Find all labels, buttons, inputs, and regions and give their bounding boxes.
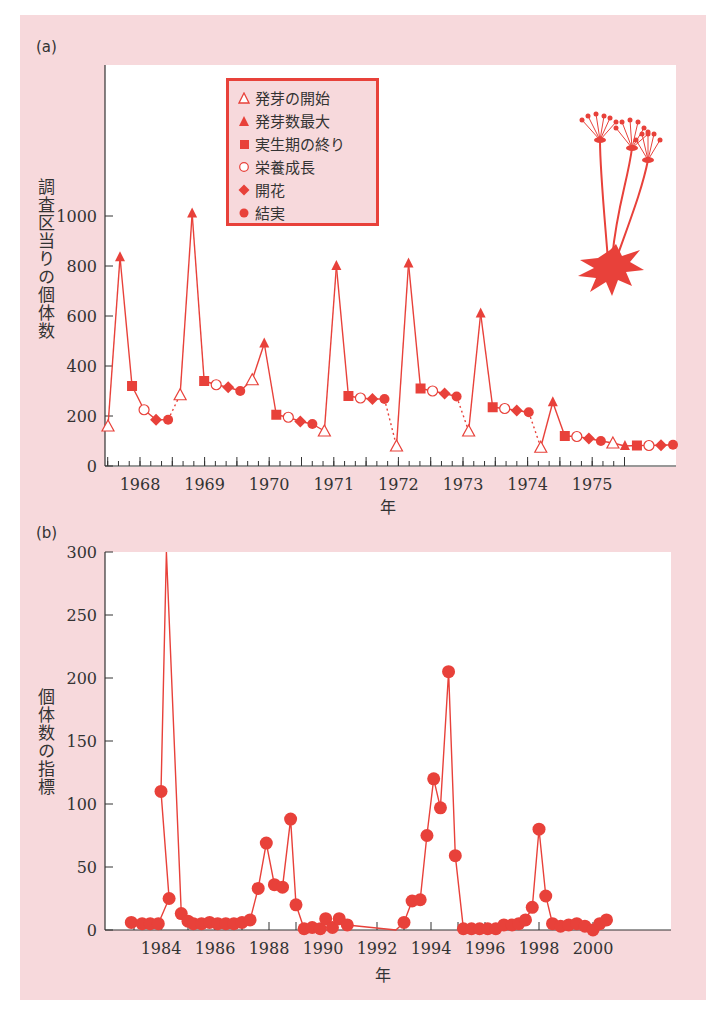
legend-item-seedling-end: 実生期の終り — [237, 132, 376, 155]
legend-item-germination-start: 発芽の開始 — [237, 86, 376, 109]
open-circle-icon — [237, 161, 251, 173]
svg-text:200: 200 — [66, 407, 97, 426]
svg-text:1970: 1970 — [249, 475, 290, 494]
legend-item-vegetative: 栄養成長 — [237, 155, 376, 178]
legend-item-germination-max: 発芽数最大 — [237, 109, 376, 132]
svg-text:1986: 1986 — [195, 939, 236, 958]
legend-label: 結実 — [255, 202, 285, 223]
svg-text:800: 800 — [66, 257, 97, 276]
svg-text:1996: 1996 — [465, 939, 506, 958]
svg-text:200: 200 — [66, 669, 97, 688]
svg-text:1974: 1974 — [507, 475, 548, 494]
chart-b: 0501001502002503001984198619881990199219… — [0, 520, 712, 1014]
plant-illustration-icon — [560, 100, 670, 300]
legend-item-flowering: 開花 — [237, 178, 376, 201]
svg-text:50: 50 — [77, 858, 97, 877]
svg-text:1975: 1975 — [572, 475, 613, 494]
svg-text:600: 600 — [66, 307, 97, 326]
svg-text:1988: 1988 — [249, 939, 290, 958]
svg-text:0: 0 — [87, 457, 97, 476]
svg-text:300: 300 — [66, 543, 97, 562]
svg-text:1994: 1994 — [411, 939, 452, 958]
legend-label: 発芽の開始 — [255, 87, 330, 108]
legend-label: 栄養成長 — [255, 156, 315, 177]
svg-text:1972: 1972 — [378, 475, 419, 494]
open-triangle-icon — [237, 92, 251, 104]
svg-text:250: 250 — [66, 606, 97, 625]
svg-text:1971: 1971 — [313, 475, 354, 494]
svg-text:1992: 1992 — [357, 939, 398, 958]
svg-text:2000: 2000 — [573, 939, 614, 958]
legend-label: 実生期の終り — [255, 133, 345, 154]
svg-text:100: 100 — [66, 795, 97, 814]
svg-text:1000: 1000 — [56, 207, 97, 226]
svg-text:400: 400 — [66, 357, 97, 376]
legend-label: 発芽数最大 — [255, 110, 330, 131]
svg-text:1973: 1973 — [443, 475, 484, 494]
filled-triangle-icon — [237, 115, 251, 127]
filled-diamond-icon — [237, 184, 251, 196]
svg-text:1998: 1998 — [519, 939, 560, 958]
legend-item-fruiting: 結実 — [237, 201, 376, 224]
legend-a: 発芽の開始 発芽数最大 実生期の終り 栄養成長 開花 結実 — [226, 78, 379, 226]
svg-text:1968: 1968 — [120, 475, 161, 494]
legend-label: 開花 — [255, 179, 285, 200]
filled-circle-icon — [237, 207, 251, 219]
filled-square-icon — [237, 138, 251, 150]
svg-text:150: 150 — [66, 732, 97, 751]
svg-text:1990: 1990 — [303, 939, 344, 958]
svg-text:1969: 1969 — [184, 475, 225, 494]
svg-text:1984: 1984 — [141, 939, 182, 958]
svg-text:0: 0 — [87, 921, 97, 940]
